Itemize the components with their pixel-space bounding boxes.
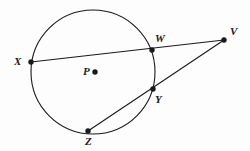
point-label-p: P — [83, 66, 90, 77]
point-dot-z — [85, 128, 90, 133]
point-label-x: X — [14, 56, 21, 67]
secant-x-w-v-line — [31, 40, 224, 62]
geometry-figure: X P W V Y Z — [0, 0, 250, 151]
point-dot-y — [150, 86, 155, 91]
point-dot-w — [149, 47, 154, 52]
point-label-y: Y — [155, 94, 162, 105]
geometry-canvas — [0, 0, 250, 151]
point-dot-p — [92, 69, 97, 74]
point-dot-x — [28, 59, 33, 64]
point-label-v: V — [230, 26, 237, 37]
point-label-w: W — [155, 33, 165, 44]
point-label-z: Z — [85, 136, 92, 147]
point-dot-v — [221, 37, 226, 42]
